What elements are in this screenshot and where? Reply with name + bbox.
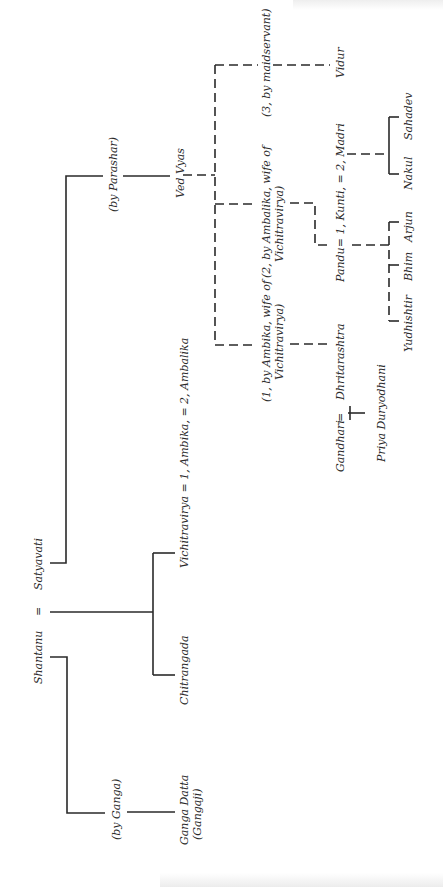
label-bhim: Bhim [402, 252, 415, 282]
label-sahadev: Sahadev [402, 92, 415, 140]
line-ambalika-pandu [290, 203, 332, 245]
scan-edge-top [293, 0, 443, 10]
label-vidur: Vidur [334, 47, 347, 78]
label-by-ambalika-1: (2, by Ambalika, wife of [260, 144, 273, 278]
label-satyavati: Satyavati [32, 538, 45, 590]
label-equals-1: = [32, 607, 45, 616]
family-tree-diagram: Shantanu = Satyavati (by Ganga) Ganga Da… [0, 0, 443, 887]
label-ved-vyas: Ved Vyas [174, 148, 187, 198]
line-satyavati-parashar [50, 176, 103, 563]
label-arjun: Arjun [402, 211, 415, 243]
label-by-parashar: (by Parashar) [107, 137, 120, 212]
label-by-ganga: (by Ganga) [110, 779, 123, 840]
label-ganga-datta: Ganga Datta [178, 775, 191, 845]
label-chitrangada: Chitrangada [178, 635, 191, 705]
label-pandu-line: Pandu= 1, Kunti, = 2, Madri [334, 123, 347, 283]
label-nakul: Nakul [402, 156, 415, 191]
label-by-ambika-2: Vichitravirya) [273, 304, 286, 380]
label-shantanu: Shantanu [32, 631, 45, 684]
label-gangaji: (Gangaji) [191, 788, 204, 840]
label-by-maidservant: (3, by maidservant) [260, 8, 273, 117]
label-equals-2: = [334, 413, 347, 422]
label-dhritarashtra: Dhritarashtra [334, 324, 347, 401]
scan-edge-bottom [160, 873, 443, 887]
label-yudhishtir: Yudhishtir [402, 294, 415, 352]
label-by-ambalika-2: Vichitravirya) [273, 186, 286, 262]
label-by-ambika-1: (1, by Ambika, wife of [260, 278, 273, 402]
label-vichitravirya-line: Vichitravirya = 1, Ambika, = 2, Ambalika [178, 338, 191, 568]
line-shantanu-ganga [50, 657, 105, 813]
label-priya-duryodhani: Priya Duryodhani [375, 364, 388, 463]
label-gandhari: Gandhari [334, 420, 347, 472]
